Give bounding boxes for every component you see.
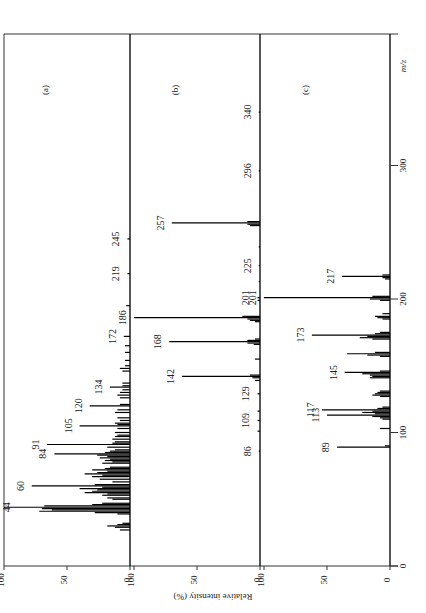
peak-label: 201 bbox=[247, 290, 258, 305]
peak-label: 219 bbox=[110, 266, 121, 281]
peak-label: 91 bbox=[30, 440, 41, 450]
peak-label: 172 bbox=[107, 329, 118, 344]
peak-label: 60 bbox=[15, 481, 26, 491]
axes: 1005001005001005000100200300m/zRelative … bbox=[0, 59, 408, 602]
peak-label: 44 bbox=[1, 502, 12, 512]
intensity-tick-label: 50 bbox=[59, 575, 69, 585]
intensity-axis-label: Relative intensity (%) bbox=[174, 592, 253, 602]
peak-label: 89 bbox=[320, 442, 331, 452]
panel-label: (c) bbox=[300, 85, 310, 95]
mz-tick-label: 0 bbox=[398, 563, 408, 568]
mz-tick-label: 100 bbox=[398, 425, 408, 439]
peak-label: 86 bbox=[242, 446, 253, 456]
peak-label: 117 bbox=[305, 402, 316, 417]
peak-label: 217 bbox=[325, 269, 336, 284]
mass-spectra-figure: 44608491105120134172219245(a)86109129142… bbox=[0, 0, 426, 613]
peak-label: 105 bbox=[63, 418, 74, 433]
peak-label: 257 bbox=[155, 215, 166, 230]
peak-label: 134 bbox=[93, 380, 104, 395]
intensity-tick-label: 100 bbox=[256, 573, 266, 587]
peak-label: 340 bbox=[242, 105, 253, 120]
peak-label: 120 bbox=[73, 398, 84, 413]
intensity-tick-label: 0 bbox=[382, 577, 392, 582]
intensity-tick-label: 100 bbox=[0, 573, 6, 587]
mz-tick-label: 300 bbox=[398, 158, 408, 172]
mz-tick-label: 200 bbox=[398, 292, 408, 306]
spectrum-panels: 44608491105120134172219245(a)86109129142… bbox=[1, 34, 390, 566]
peak-label: 173 bbox=[295, 328, 306, 343]
peak-label: 109 bbox=[240, 413, 251, 428]
intensity-tick-label: 50 bbox=[189, 575, 199, 585]
panel-label: (a) bbox=[40, 85, 50, 95]
peak-label: 296 bbox=[242, 163, 253, 178]
panel-c: 89113117145173201217(c) bbox=[247, 34, 390, 566]
panel-label: (b) bbox=[170, 85, 180, 96]
intensity-tick-label: 50 bbox=[319, 575, 329, 585]
peak-label: 129 bbox=[240, 386, 251, 401]
peak-label: 145 bbox=[328, 365, 339, 380]
peak-label: 225 bbox=[242, 258, 253, 273]
peak-label: 186 bbox=[117, 310, 128, 325]
peak-label: 245 bbox=[110, 231, 121, 246]
peak-label: 142 bbox=[165, 369, 176, 384]
panel-b: 86109129142168186201225257296340(b) bbox=[117, 34, 260, 566]
peak-label: 168 bbox=[152, 334, 163, 349]
intensity-tick-label: 100 bbox=[126, 573, 136, 587]
mz-axis-label: m/z bbox=[398, 59, 408, 72]
panel-a: 44608491105120134172219245(a) bbox=[1, 34, 130, 566]
